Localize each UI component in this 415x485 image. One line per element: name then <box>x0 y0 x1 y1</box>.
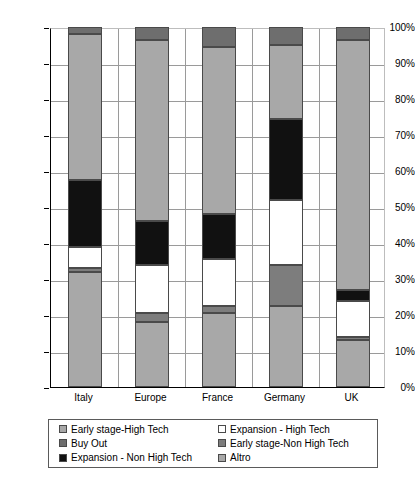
y-axis-tick-mark <box>44 136 49 137</box>
bar-segment[interactable] <box>68 27 102 34</box>
bar-europe[interactable] <box>135 29 169 387</box>
y-axis-tick-mark <box>44 316 49 317</box>
legend-label: Early stage-High Tech <box>71 424 169 435</box>
y-axis-tick-mark <box>44 172 49 173</box>
legend-entry[interactable]: Early stage-Non High Tech <box>218 436 377 450</box>
bar-france[interactable] <box>202 29 236 387</box>
bar-segment[interactable] <box>269 27 303 45</box>
category-separator <box>252 29 253 387</box>
bar-segment[interactable] <box>68 34 102 180</box>
bar-segment[interactable] <box>202 313 236 387</box>
legend-entry[interactable]: Expansion - Non High Tech <box>59 451 218 465</box>
legend-swatch-icon <box>59 454 67 462</box>
y-axis-tick-mark <box>44 100 49 101</box>
bar-segment[interactable] <box>336 337 370 341</box>
y-axis-tick-mark <box>44 208 49 209</box>
legend-label: Expansion - Non High Tech <box>71 452 192 463</box>
x-axis-tick-label: Italy <box>50 392 117 404</box>
y-axis-tick-mark <box>44 64 49 65</box>
bar-segment[interactable] <box>202 259 236 306</box>
legend-label: Buy Out <box>71 438 107 449</box>
legend-entry[interactable]: Altro <box>218 451 377 465</box>
bar-segment[interactable] <box>202 306 236 313</box>
y-axis-tick-mark <box>44 388 49 389</box>
bar-segment[interactable] <box>135 322 169 387</box>
bar-segment[interactable] <box>336 290 370 301</box>
legend-swatch-icon <box>218 425 226 433</box>
bar-segment[interactable] <box>269 200 303 265</box>
bar-segment[interactable] <box>336 40 370 290</box>
bar-segment[interactable] <box>269 45 303 119</box>
stacked-bar-chart: 100%90%80%70%60%50%40%30%20%10%0% ItalyE… <box>0 0 415 485</box>
category-separator <box>319 29 320 387</box>
legend-entry[interactable]: Expansion - High Tech <box>218 422 377 436</box>
bar-segment[interactable] <box>68 272 102 387</box>
bar-segment[interactable] <box>269 306 303 387</box>
bar-italy[interactable] <box>68 29 102 387</box>
legend-swatch-icon <box>59 439 67 447</box>
bar-segment[interactable] <box>336 27 370 40</box>
chart-legend: Early stage-High TechExpansion - High Te… <box>48 419 378 468</box>
plot-area <box>50 28 385 388</box>
bar-segment[interactable] <box>336 340 370 387</box>
category-separator <box>185 29 186 387</box>
legend-label: Altro <box>230 452 251 463</box>
legend-entry[interactable]: Buy Out <box>59 436 218 450</box>
legend-swatch-icon <box>59 425 67 433</box>
bar-segment[interactable] <box>135 27 169 40</box>
bar-segment[interactable] <box>202 214 236 259</box>
bar-segment[interactable] <box>269 265 303 306</box>
legend-entry[interactable]: Early stage-High Tech <box>59 422 218 436</box>
bar-segment[interactable] <box>135 221 169 264</box>
legend-swatch-icon <box>218 439 226 447</box>
y-axis-tick-mark <box>44 28 49 29</box>
legend-swatch-icon <box>218 454 226 462</box>
bar-segment[interactable] <box>135 40 169 222</box>
y-axis-tick-mark <box>44 280 49 281</box>
bar-uk[interactable] <box>336 29 370 387</box>
bar-segment[interactable] <box>135 313 169 322</box>
bar-segment[interactable] <box>202 47 236 214</box>
y-axis-tick-mark <box>44 244 49 245</box>
legend-label: Early stage-Non High Tech <box>230 438 349 449</box>
category-separator <box>118 29 119 387</box>
bar-germany[interactable] <box>269 29 303 387</box>
bar-segment[interactable] <box>68 268 102 272</box>
bar-segment[interactable] <box>336 301 370 337</box>
legend-label: Expansion - High Tech <box>230 424 330 435</box>
x-axis-tick-label: France <box>184 392 251 404</box>
bar-segment[interactable] <box>68 247 102 269</box>
x-axis-tick-label: Europe <box>117 392 184 404</box>
bar-segment[interactable] <box>269 119 303 200</box>
bar-segment[interactable] <box>68 180 102 247</box>
bar-segment[interactable] <box>202 27 236 47</box>
y-axis-tick-mark <box>44 352 49 353</box>
x-axis-tick-label: UK <box>318 392 385 404</box>
x-axis-tick-label: Germany <box>251 392 318 404</box>
bar-segment[interactable] <box>135 265 169 314</box>
